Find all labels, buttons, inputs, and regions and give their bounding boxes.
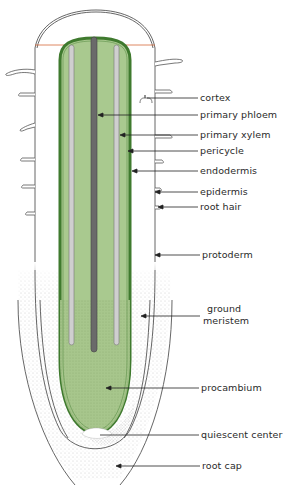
label-primary-phloem: primary phloem xyxy=(200,109,277,120)
label-protoderm: protoderm xyxy=(202,249,253,260)
label-quiescent-center: quiescent center xyxy=(201,429,282,440)
label-primary-xylem: primary xylem xyxy=(200,129,270,140)
label-ground-meristem-line2: meristem xyxy=(203,315,249,326)
primary-phloem-strand xyxy=(91,37,97,352)
label-procambium: procambium xyxy=(201,382,262,393)
root-hairs-right xyxy=(155,59,183,209)
cortex-bracket xyxy=(140,95,152,103)
label-root-hair: root hair xyxy=(200,201,241,212)
label-cortex: cortex xyxy=(200,92,231,103)
label-root-cap: root cap xyxy=(202,460,242,471)
label-epidermis: epidermis xyxy=(200,186,248,197)
root-hairs-left xyxy=(6,69,35,215)
label-ground-meristem-line1: ground xyxy=(207,303,241,314)
label-endodermis: endodermis xyxy=(200,165,257,176)
label-pericycle: pericycle xyxy=(200,145,244,156)
root-tip-diagram xyxy=(0,0,285,493)
